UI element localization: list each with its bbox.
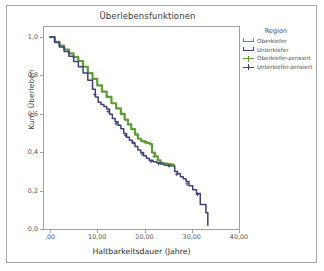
x-tick-mark (97, 230, 98, 233)
survival-curves-plot (43, 26, 240, 230)
legend-item: Unterkiefer-zensiert (242, 64, 318, 71)
legend-label: Unterkiefer (257, 47, 289, 54)
legend-item: Oberkiefer-zensiert (242, 55, 318, 62)
legend-swatch-icon (242, 55, 255, 62)
survival-curve-unterkiefer (50, 37, 208, 225)
x-tick-mark (50, 230, 51, 233)
chart-screenshot: Überlebensfunktionen 1,00,80,60,40,20,0 … (0, 0, 324, 271)
x-tick-label: ,00 (33, 233, 67, 241)
y-tick-mark (40, 191, 43, 192)
x-tick-mark (239, 230, 240, 233)
y-axis-label: Kum. Überleben (27, 45, 36, 155)
y-tick-mark (40, 152, 43, 153)
x-tick-label: 40,00 (222, 233, 256, 241)
legend-swatch-icon (242, 64, 255, 71)
chart-legend: Region OberkieferUnterkieferOberkiefer-z… (242, 27, 318, 72)
legend-item: Unterkiefer (242, 47, 318, 54)
y-tick-mark (40, 229, 43, 230)
legend-label: Unterkiefer-zensiert (257, 64, 313, 71)
y-tick-label: 0,2 (12, 187, 38, 195)
y-tick-mark (40, 37, 43, 38)
y-tick-mark (40, 75, 43, 76)
legend-label: Oberkiefer-zensiert (257, 55, 311, 62)
censor-marker (185, 182, 188, 186)
x-tick-label: 30,00 (175, 233, 209, 241)
legend-item: Oberkiefer (242, 38, 318, 45)
legend-swatch-icon (242, 47, 255, 54)
legend-items: OberkieferUnterkieferOberkiefer-zensiert… (242, 38, 318, 71)
x-tick-label: 10,00 (80, 233, 114, 241)
x-axis-label: Haltbarkeitsdauer (Jahre) (43, 247, 240, 256)
y-tick-label: 0,0 (12, 225, 38, 233)
chart-title: Überlebensfunktionen (60, 11, 235, 21)
x-tick-mark (145, 230, 146, 233)
y-tick-label: 1,0 (12, 33, 38, 41)
legend-swatch-icon (242, 38, 255, 45)
x-tick-label: 20,00 (128, 233, 162, 241)
y-tick-mark (40, 114, 43, 115)
x-tick-mark (192, 230, 193, 233)
legend-label: Oberkiefer (257, 38, 287, 45)
legend-title: Region (246, 27, 306, 35)
